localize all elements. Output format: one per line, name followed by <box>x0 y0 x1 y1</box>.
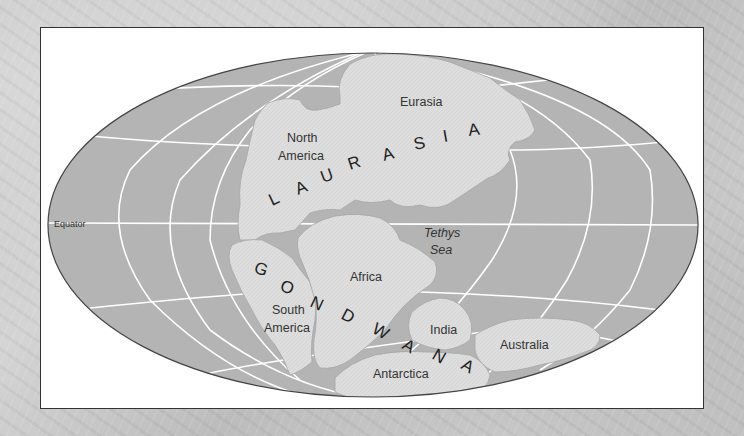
label-south-america-1: South <box>272 303 305 317</box>
label-africa: Africa <box>350 270 382 284</box>
label-south-america-2: America <box>264 321 310 335</box>
label-north-america-1: North <box>287 131 318 145</box>
label-north-america-2: America <box>278 149 324 163</box>
pangaea-map: Eurasia North America Africa South Ameri… <box>0 0 744 436</box>
label-australia: Australia <box>500 338 549 352</box>
label-equator: Equator <box>54 219 86 229</box>
label-eurasia: Eurasia <box>400 95 442 109</box>
label-tethys-1: Tethys <box>424 226 460 240</box>
label-india: India <box>430 323 457 337</box>
label-antarctica: Antarctica <box>373 367 429 381</box>
label-tethys-2: Sea <box>430 243 452 257</box>
